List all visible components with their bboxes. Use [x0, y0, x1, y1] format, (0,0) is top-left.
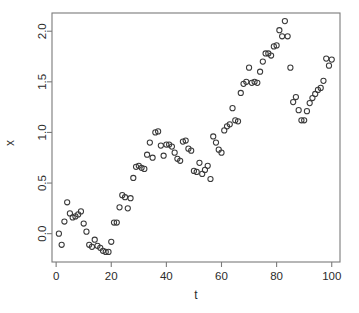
- data-point: [238, 90, 243, 95]
- data-point: [56, 231, 61, 236]
- data-point: [92, 237, 97, 242]
- x-tick-label: 100: [322, 270, 341, 282]
- data-point: [125, 206, 130, 211]
- data-point: [280, 34, 285, 39]
- data-point: [131, 175, 136, 180]
- data-point: [161, 153, 166, 158]
- data-point: [282, 19, 287, 24]
- y-axis-title: x: [3, 140, 17, 146]
- data-point: [150, 155, 155, 160]
- y-tick-label: 1.5: [36, 74, 48, 90]
- data-point: [109, 239, 114, 244]
- data-point: [307, 100, 312, 105]
- data-point: [147, 140, 152, 145]
- data-point: [128, 196, 133, 201]
- data-point: [288, 65, 293, 70]
- data-point: [321, 78, 326, 83]
- data-point: [257, 69, 262, 74]
- x-axis: 020406080100: [53, 262, 341, 282]
- x-tick-label: 40: [160, 270, 173, 282]
- data-point: [304, 109, 309, 114]
- data-point: [144, 152, 149, 157]
- data-point: [205, 163, 210, 168]
- scatter-plot-figure: 020406080100 0.00.51.01.52.0 t x: [0, 0, 359, 313]
- data-point: [213, 140, 218, 145]
- data-points-layer: [56, 19, 334, 255]
- data-point: [329, 57, 334, 62]
- x-tick-label: 0: [53, 270, 59, 282]
- data-point: [296, 108, 301, 113]
- x-tick-label: 60: [215, 270, 228, 282]
- data-point: [326, 63, 331, 68]
- data-point: [293, 94, 298, 99]
- y-tick-label: 0.5: [36, 175, 48, 191]
- data-point: [285, 34, 290, 39]
- x-tick-label: 80: [270, 270, 283, 282]
- x-axis-title: t: [194, 288, 198, 302]
- data-point: [65, 200, 70, 205]
- data-point: [59, 242, 64, 247]
- data-point: [117, 205, 122, 210]
- y-tick-label: 0.0: [36, 226, 48, 242]
- x-tick-label: 20: [105, 270, 118, 282]
- data-point: [81, 221, 86, 226]
- data-point: [84, 229, 89, 234]
- data-point: [246, 65, 251, 70]
- data-point: [230, 106, 235, 111]
- data-point: [324, 56, 329, 61]
- data-point: [172, 150, 177, 155]
- data-point: [277, 28, 282, 33]
- data-point: [197, 160, 202, 165]
- data-point: [291, 99, 296, 104]
- data-point: [211, 134, 216, 139]
- y-tick-label: 2.0: [36, 23, 48, 39]
- data-point: [62, 219, 67, 224]
- plot-frame: [52, 13, 340, 262]
- data-point: [260, 59, 265, 64]
- data-point: [158, 143, 163, 148]
- y-tick-label: 1.0: [36, 124, 48, 140]
- y-axis: 0.00.51.01.52.0: [36, 23, 52, 241]
- plot-canvas: 020406080100 0.00.51.01.52.0 t x: [0, 0, 359, 313]
- data-point: [208, 176, 213, 181]
